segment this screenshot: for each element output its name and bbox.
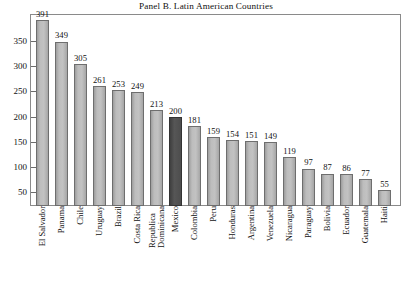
x-axis-category-label: Panama [55, 206, 68, 284]
bar[interactable] [378, 190, 391, 206]
x-axis-category-label: Argentina [245, 206, 258, 284]
bar[interactable] [131, 92, 144, 206]
bar-group[interactable]: 200 [169, 14, 182, 206]
bar-group[interactable]: 213 [150, 14, 163, 206]
bar-value-label: 77 [361, 169, 370, 178]
bar-value-label: 149 [264, 132, 277, 141]
bar[interactable] [112, 90, 125, 206]
bar-value-label: 249 [131, 82, 144, 91]
x-axis-category-label-text: Argentina [247, 206, 256, 240]
chart-figure: Panel B. Latin American Countries 501001… [0, 0, 412, 284]
bar[interactable] [226, 140, 239, 206]
bar-value-label: 213 [150, 100, 163, 109]
bar-value-label: 97 [304, 158, 313, 167]
bar-group[interactable]: 77 [359, 14, 372, 206]
x-axis-category-label-text: RepublicaDominicana [147, 206, 166, 248]
bar[interactable] [321, 174, 334, 206]
x-axis-category-label-text: Haiti [380, 206, 389, 223]
bar[interactable] [150, 110, 163, 206]
bar-group[interactable]: 151 [245, 14, 258, 206]
bar[interactable] [245, 141, 258, 206]
x-axis-category-label-text: Paraguay [304, 206, 313, 238]
x-axis-category-label-text: Brazil [114, 206, 123, 227]
bar-value-label: 87 [323, 163, 332, 172]
bar-value-label: 391 [36, 10, 49, 19]
bar-value-label: 154 [226, 130, 239, 139]
x-axis-category-label-text: Bolivia [323, 206, 332, 231]
x-axis-category-label: El Salvador [36, 206, 49, 284]
x-axis-category-label-text: Uruguay [95, 206, 104, 236]
bar[interactable] [93, 86, 106, 206]
x-axis-category-label-text: Honduras [228, 206, 237, 239]
bar[interactable] [264, 142, 277, 206]
x-axis-category-label: Venezuela [264, 206, 277, 284]
bars-layer: 3913493052612532492132001811591541511491… [30, 14, 401, 206]
bar-group[interactable]: 154 [226, 14, 239, 206]
bar-group[interactable]: 181 [188, 14, 201, 206]
bar[interactable] [359, 179, 372, 206]
bar-value-label: 181 [188, 116, 201, 125]
bar-value-label: 86 [342, 164, 351, 173]
x-axis-category-label-text: El Salvador [38, 206, 47, 246]
x-axis-category-label-text: Costa Rica [133, 206, 142, 243]
x-axis-category-labels: El SalvadorPanamaChileUruguayBrazilCosta… [30, 206, 401, 284]
bar-value-label: 119 [283, 147, 296, 156]
bar-value-label: 261 [93, 76, 106, 85]
x-axis-category-label: Paraguay [302, 206, 315, 284]
bar-group[interactable]: 97 [302, 14, 315, 206]
x-axis-category-label-text: Colombia [190, 206, 199, 240]
bar-group[interactable]: 159 [207, 14, 220, 206]
bar[interactable] [283, 157, 296, 206]
bar-value-label: 55 [380, 180, 389, 189]
x-axis-category-label-text: Guatemala [361, 206, 370, 243]
x-axis-category-label: Haiti [378, 206, 391, 284]
x-axis-category-label: Chile [74, 206, 87, 284]
bar-value-label: 349 [55, 31, 68, 40]
bar-value-label: 159 [207, 127, 220, 136]
x-axis-category-label: RepublicaDominicana [150, 206, 163, 284]
bar-group[interactable]: 86 [340, 14, 353, 206]
bar[interactable] [74, 64, 87, 206]
x-axis-category-label-text: Mexico [171, 206, 180, 232]
bar-group[interactable]: 87 [321, 14, 334, 206]
x-axis-category-label-text: Ecuador [342, 206, 351, 235]
x-axis-category-label-text: Venezuela [266, 206, 275, 241]
x-axis-category-label: Nicaragua [283, 206, 296, 284]
bar[interactable] [36, 20, 49, 206]
bar-value-label: 253 [112, 80, 125, 89]
x-axis-category-label-text: Chile [76, 206, 85, 225]
bar-group[interactable]: 253 [112, 14, 125, 206]
x-axis-category-label: Colombia [188, 206, 201, 284]
bar-highlighted[interactable] [169, 117, 182, 206]
bar[interactable] [340, 174, 353, 206]
x-axis-category-label: Costa Rica [131, 206, 144, 284]
x-axis-category-label-text: Nicaragua [285, 206, 294, 241]
x-axis-category-label: Uruguay [93, 206, 106, 284]
bar-group[interactable]: 261 [93, 14, 106, 206]
x-axis-category-label: Bolivia [321, 206, 334, 284]
bar[interactable] [55, 42, 68, 206]
bar-group[interactable]: 149 [264, 14, 277, 206]
bar-group[interactable]: 55 [378, 14, 391, 206]
x-axis-category-label: Peru [207, 206, 220, 284]
bar[interactable] [302, 169, 315, 206]
bar-value-label: 305 [74, 54, 87, 63]
bar-value-label: 200 [169, 107, 182, 116]
x-axis-category-label: Ecuador [340, 206, 353, 284]
x-axis-category-label: Honduras [226, 206, 239, 284]
bar-group[interactable]: 249 [131, 14, 144, 206]
bar-group[interactable]: 305 [74, 14, 87, 206]
x-axis-category-label-text: Panama [57, 206, 66, 233]
x-axis-category-label: Brazil [112, 206, 125, 284]
bar-group[interactable]: 391 [36, 14, 49, 206]
bar-group[interactable]: 349 [55, 14, 68, 206]
bar[interactable] [188, 126, 201, 206]
x-axis-category-label-text: Peru [209, 206, 218, 222]
x-axis-category-label: Mexico [169, 206, 182, 284]
bar[interactable] [207, 137, 220, 206]
x-axis-category-label: Guatemala [359, 206, 372, 284]
bar-group[interactable]: 119 [283, 14, 296, 206]
bar-value-label: 151 [245, 131, 258, 140]
